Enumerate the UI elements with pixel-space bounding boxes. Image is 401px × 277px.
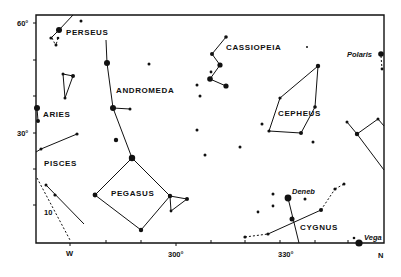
label-aries: ARIES bbox=[43, 110, 71, 119]
cassiopeia-constellation bbox=[196, 35, 229, 88]
x-label-w: W bbox=[66, 249, 74, 258]
cepheus-constellation bbox=[261, 64, 321, 144]
x-label-n: N bbox=[378, 251, 383, 260]
chart-frame bbox=[36, 15, 384, 243]
star-chart: 60° 30° W 300° 330° N PERSEUS ANDROMEDA bbox=[0, 0, 401, 277]
label-cassiopeia: CASSIOPEIA bbox=[226, 43, 281, 52]
label-ten: 10 bbox=[44, 208, 52, 217]
vega-star bbox=[353, 237, 363, 247]
y-label-60: 60° bbox=[17, 19, 28, 28]
label-cygnus: CYGNUS bbox=[300, 223, 338, 232]
label-vega: Vega bbox=[364, 233, 382, 242]
andromeda-constellation bbox=[104, 40, 151, 158]
y-label-30: 30° bbox=[17, 129, 28, 138]
x-label-330: 330° bbox=[278, 250, 294, 259]
label-pegasus: PEGASUS bbox=[111, 189, 154, 198]
polaris-group bbox=[378, 51, 384, 70]
field-stars bbox=[196, 46, 309, 157]
label-cepheus: CEPHEUS bbox=[278, 109, 321, 118]
aries-constellation bbox=[34, 105, 40, 123]
label-polaris: Polaris bbox=[347, 50, 372, 59]
label-pisces: PISCES bbox=[44, 159, 77, 168]
triangulum-constellation bbox=[62, 73, 76, 100]
label-deneb: Deneb bbox=[292, 187, 315, 196]
pisces-constellation bbox=[36, 132, 84, 240]
label-andromeda: ANDROMEDA bbox=[116, 86, 174, 95]
x-label-300: 300° bbox=[168, 250, 184, 259]
label-perseus: PERSEUS bbox=[66, 28, 108, 37]
draco-constellation bbox=[346, 118, 385, 171]
